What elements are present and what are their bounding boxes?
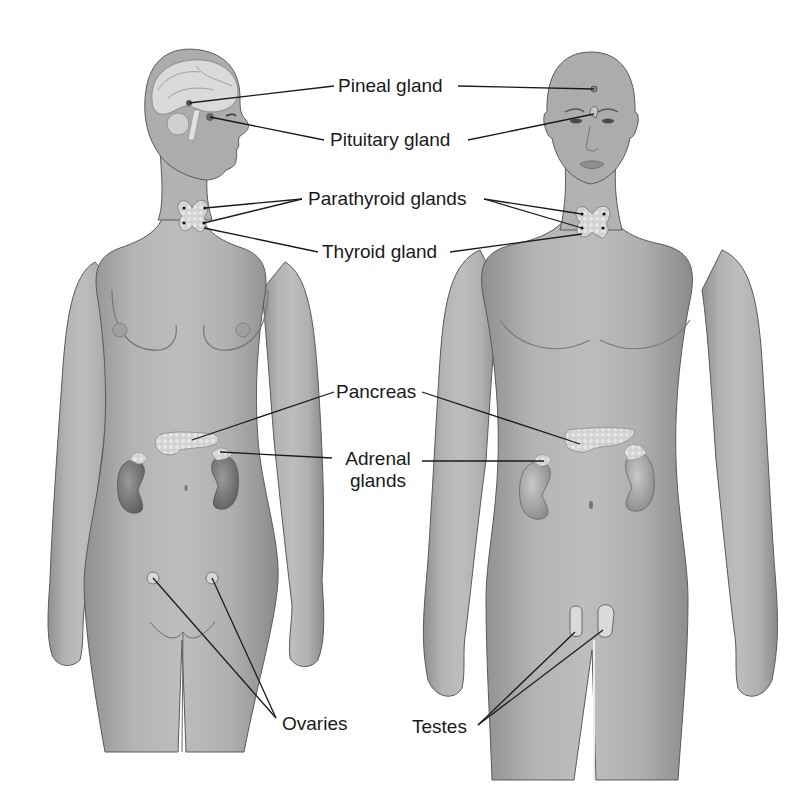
male-right-arm [702, 250, 778, 696]
parathyroid-line-female-1 [205, 199, 302, 208]
female-torso [84, 205, 278, 752]
male-parathyroid-2 [602, 212, 605, 215]
female-figure [48, 49, 324, 752]
label-pituitary-gland: Pituitary gland [330, 129, 450, 151]
diagram-canvas [0, 0, 793, 811]
male-eye-right [602, 119, 614, 124]
parathyroid-line-female-2 [204, 199, 302, 223]
female-navel [185, 485, 188, 491]
label-parathyroid-glands: Parathyroid glands [308, 188, 466, 210]
endocrine-diagram: Pineal gland Pituitary gland Parathyroid… [0, 0, 793, 811]
label-adrenal-line2: glands [338, 470, 418, 492]
male-figure [423, 52, 777, 780]
male-kidney-right [626, 452, 655, 511]
male-testis-left [570, 606, 582, 637]
label-testes: Testes [412, 716, 467, 738]
label-thyroid-gland: Thyroid gland [322, 241, 437, 263]
male-eye-left [570, 119, 582, 124]
female-nipple-right [236, 323, 250, 337]
female-parathyroid-1 [182, 206, 185, 209]
label-ovaries: Ovaries [282, 713, 347, 735]
label-adrenal-line1: Adrenal [338, 448, 418, 470]
female-parathyroid-3 [182, 221, 185, 224]
label-pineal-gland: Pineal gland [338, 75, 443, 97]
label-adrenal-glands: Adrenal glands [338, 448, 418, 492]
female-cerebellum [167, 113, 189, 135]
label-pancreas: Pancreas [336, 381, 416, 403]
male-parathyroid-4 [601, 226, 604, 229]
male-navel [589, 501, 593, 509]
female-nipple-left [113, 323, 127, 337]
